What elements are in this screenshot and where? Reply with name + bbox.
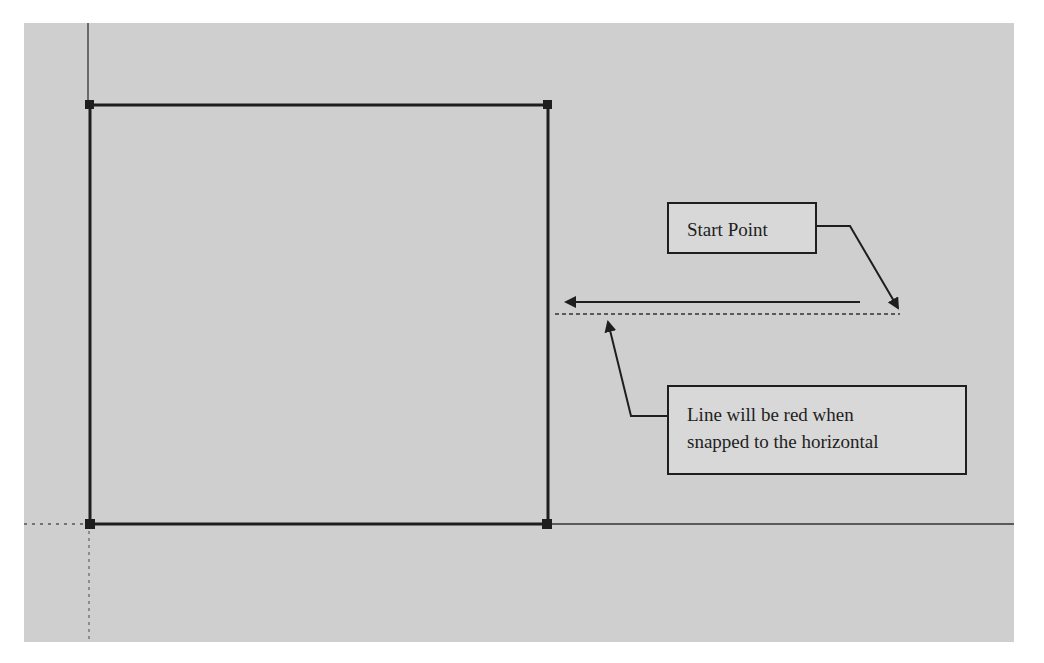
note-line-2: snapped to the horizontal [687,428,965,455]
note-leader-arrow [608,322,667,416]
vertex-bottom-left[interactable] [85,519,95,529]
diagram-scene [0,0,1044,663]
start-point-leader-arrow [817,226,898,308]
vertex-top-left[interactable] [85,100,94,109]
vertex-top-right[interactable] [543,100,552,109]
start-point-text: Start Point [687,216,815,243]
note-line-1: Line will be red when [687,401,965,428]
start-point-label: Start Point [667,202,817,254]
snap-note-label: Line will be red when snapped to the hor… [667,385,967,475]
vertex-bottom-right[interactable] [542,519,552,529]
square-shape[interactable] [90,105,548,524]
